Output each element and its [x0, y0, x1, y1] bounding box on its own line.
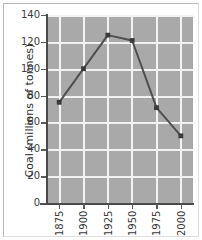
- x-axis-tick: [108, 204, 109, 209]
- y-axis-tick: [41, 149, 46, 150]
- gridline-vertical: [131, 15, 133, 203]
- gridline-vertical: [107, 15, 109, 203]
- x-axis-tick-label: 2000: [177, 211, 187, 236]
- gridline-horizontal: [47, 122, 193, 124]
- x-axis-tick-label: 1900: [79, 211, 89, 236]
- y-axis-tick: [41, 203, 46, 204]
- x-axis-line: [40, 203, 194, 205]
- y-axis-tick: [41, 15, 46, 16]
- x-axis-tick-label: 1875: [55, 211, 65, 236]
- plot-area: [47, 15, 193, 203]
- y-axis-tick: [41, 42, 46, 43]
- gridline-horizontal: [47, 149, 193, 151]
- y-axis-line: [46, 14, 48, 204]
- gridline-horizontal: [47, 176, 193, 178]
- y-axis-tick: [41, 176, 46, 177]
- chart-figure: 140 120 100 80 60 40 20 0 1875 1900 1925…: [0, 0, 202, 240]
- x-axis-tick-label: 1925: [104, 211, 114, 236]
- x-axis-tick-label: 1975: [152, 211, 162, 236]
- x-axis-tick: [156, 204, 157, 209]
- y-axis-tick-label: 140: [2, 10, 40, 20]
- x-axis-tick: [83, 204, 84, 209]
- x-axis-tick-label: 1950: [128, 211, 138, 236]
- x-axis-tick: [181, 204, 182, 209]
- x-axis-tick: [59, 204, 60, 209]
- gridline-horizontal: [47, 15, 193, 17]
- gridline-vertical: [156, 15, 158, 203]
- y-axis-title: Coal (millions of tonnes): [23, 36, 36, 186]
- gridline-vertical: [59, 15, 61, 203]
- y-axis-tick: [41, 122, 46, 123]
- gridline-horizontal: [47, 69, 193, 71]
- y-axis-tick: [41, 69, 46, 70]
- gridline-horizontal: [47, 42, 193, 44]
- gridline-vertical: [180, 15, 182, 203]
- gridline-horizontal: [47, 96, 193, 98]
- y-axis-tick-label: 0: [2, 198, 40, 208]
- y-axis-tick: [41, 96, 46, 97]
- x-axis-tick: [132, 204, 133, 209]
- gridline-vertical: [83, 15, 85, 203]
